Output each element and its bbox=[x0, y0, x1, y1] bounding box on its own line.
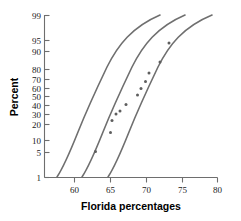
data-point bbox=[109, 131, 112, 134]
y-axis-tick-labels: 99 95 90 80 70 60 50 40 30 20 10 5 1 bbox=[32, 11, 42, 183]
y-tick-label-30: 30 bbox=[32, 110, 42, 120]
y-tick-label-90: 90 bbox=[32, 47, 42, 57]
fitted-normal-line-curve bbox=[82, 15, 185, 177]
data-point bbox=[140, 87, 143, 90]
axes-group bbox=[45, 15, 218, 178]
x-tick-label-65: 65 bbox=[106, 185, 116, 195]
y-tick-label-5: 5 bbox=[37, 148, 42, 158]
x-tick-label-75: 75 bbox=[178, 185, 188, 195]
data-point bbox=[119, 110, 122, 113]
x-tick-label-70: 70 bbox=[142, 185, 152, 195]
data-point bbox=[144, 80, 147, 83]
data-point bbox=[125, 103, 128, 106]
x-axis-ticks bbox=[75, 178, 218, 183]
lower-confidence-band-curve bbox=[108, 15, 212, 177]
data-point bbox=[168, 42, 171, 45]
x-axis-tick-labels: 60 65 70 75 80 bbox=[70, 185, 223, 195]
y-axis-title: Percent bbox=[8, 77, 20, 116]
data-point bbox=[94, 150, 97, 153]
y-axis-ticks bbox=[45, 16, 50, 178]
data-point bbox=[115, 113, 118, 116]
y-tick-label-1: 1 bbox=[37, 173, 42, 183]
y-tick-label-10: 10 bbox=[32, 136, 42, 146]
y-tick-label-99: 99 bbox=[32, 11, 42, 21]
data-point bbox=[136, 94, 139, 97]
y-tick-label-95: 95 bbox=[32, 36, 42, 46]
x-tick-label-60: 60 bbox=[70, 185, 80, 195]
x-tick-label-80: 80 bbox=[213, 185, 223, 195]
y-tick-label-20: 20 bbox=[32, 120, 42, 130]
curves-group bbox=[57, 15, 212, 177]
x-axis-title: Florida percentages bbox=[81, 200, 181, 212]
plot-canvas: 99 95 90 80 70 60 50 40 30 20 10 5 1 60 … bbox=[0, 0, 241, 221]
data-points-group bbox=[94, 42, 171, 154]
normal-probability-plot: 99 95 90 80 70 60 50 40 30 20 10 5 1 60 … bbox=[0, 0, 241, 221]
data-point bbox=[111, 119, 114, 122]
y-tick-label-80: 80 bbox=[32, 65, 42, 75]
data-point bbox=[148, 72, 151, 75]
data-point bbox=[159, 61, 162, 64]
